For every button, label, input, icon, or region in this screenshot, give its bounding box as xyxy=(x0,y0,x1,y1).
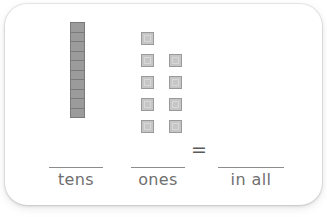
ones-cube xyxy=(141,54,154,67)
answer-slot-ones[interactable]: ones xyxy=(131,167,185,191)
answer-label-ones: ones xyxy=(131,170,185,191)
ones-cube xyxy=(169,98,182,111)
ones-cube xyxy=(169,120,182,133)
worksheet-card: = tens ones in all xyxy=(5,4,322,205)
ones-cube xyxy=(169,76,182,89)
ones-cube-row xyxy=(141,76,197,98)
ones-cubes-group[interactable] xyxy=(141,32,197,142)
ones-cube xyxy=(141,120,154,133)
answer-blanks-row: tens ones in all xyxy=(5,167,322,207)
answer-slot-tens[interactable]: tens xyxy=(49,167,103,191)
equals-sign: = xyxy=(191,140,207,159)
answer-label-tens: tens xyxy=(49,170,103,191)
ones-cube xyxy=(141,98,154,111)
answer-blank-ones[interactable] xyxy=(131,167,185,168)
tens-rod[interactable] xyxy=(70,22,85,117)
ones-cube xyxy=(169,54,182,67)
base-ten-blocks-area xyxy=(5,4,322,139)
ones-cube-row xyxy=(141,98,197,120)
ones-cube xyxy=(141,32,154,45)
ones-cube-row xyxy=(141,120,197,142)
ones-cube-row xyxy=(141,32,197,54)
answer-blank-tens[interactable] xyxy=(49,167,103,168)
answer-label-in-all: in all xyxy=(218,170,284,191)
ones-cube xyxy=(141,76,154,89)
tens-rod-segment xyxy=(70,108,85,119)
answer-blank-in-all[interactable] xyxy=(218,167,284,168)
answer-slot-in-all[interactable]: in all xyxy=(218,167,284,191)
ones-cube-row xyxy=(141,54,197,76)
